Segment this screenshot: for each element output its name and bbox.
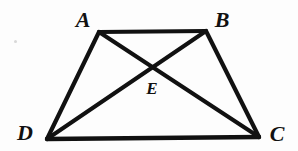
vertex-label-d: D [17, 122, 33, 144]
scan-speck-artifact [14, 40, 17, 43]
vertex-label-e: E [146, 80, 157, 97]
figure-canvas [0, 0, 298, 151]
vertex-label-c: C [270, 123, 285, 145]
vertex-label-b: B [215, 9, 230, 31]
segment-ab [99, 31, 206, 32]
segment-dc [47, 137, 259, 139]
geometry-figure: A B C D E [0, 0, 298, 151]
vertex-label-a: A [76, 9, 91, 31]
